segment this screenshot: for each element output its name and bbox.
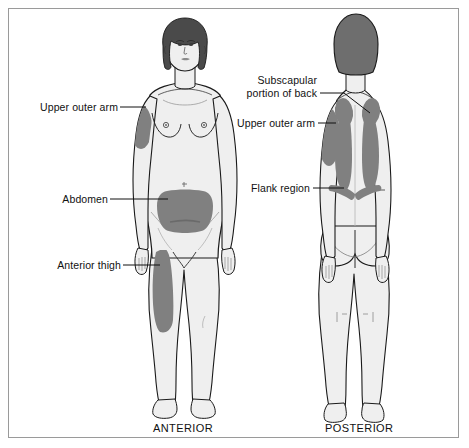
region-abdomen-anterior — [157, 190, 213, 234]
region-anterior-thigh — [153, 248, 174, 333]
caption-posterior: POSTERIOR — [325, 422, 393, 434]
posterior-figure — [318, 14, 391, 422]
label-abdomen: Abdomen — [25, 193, 108, 205]
illustration-figure: Upper outer arm Abdomen Anterior thigh S… — [0, 0, 469, 448]
label-subscapular-line1: Subscapular — [258, 74, 317, 86]
label-subscapular-back: Subscapular portion of back — [221, 74, 317, 99]
label-subscapular-line2: portion of back — [247, 87, 317, 99]
label-anterior-thigh: Anterior thigh — [38, 259, 121, 271]
body-diagram-artwork — [0, 0, 469, 448]
label-flank-region: Flank region — [235, 182, 310, 194]
label-upper-outer-arm-anterior: Upper outer arm — [33, 101, 118, 113]
caption-anterior: ANTERIOR — [153, 422, 213, 434]
label-upper-outer-arm-posterior: Upper outer arm — [230, 117, 315, 129]
